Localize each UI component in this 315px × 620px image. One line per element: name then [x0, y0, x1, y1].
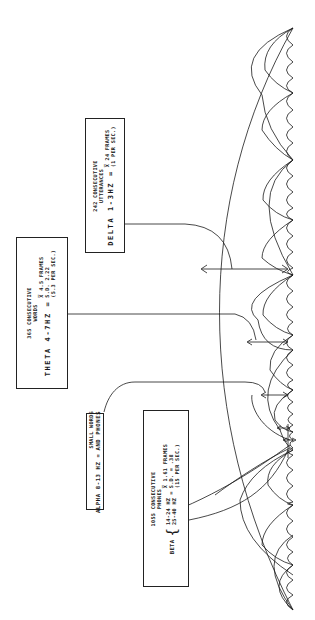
- beta-band-label: BETA: [169, 539, 175, 554]
- theta-box-text: 365 CONSECUTIVE WORDS THETA 4-7HZ = X̅ 4…: [27, 250, 57, 377]
- scalloped-baseline: [287, 28, 294, 610]
- beta-equals: =: [169, 491, 175, 494]
- alpha-box: SMALL WORDS ALPHA 8-13 HZ = AND PHONES: [86, 413, 104, 510]
- beta-range-2: 25-40 HZ: [172, 497, 178, 524]
- delta-connector: [125, 224, 232, 269]
- alpha-connector: [104, 382, 265, 412]
- beta-box-text: 1055 CONSECUTIVE PHONES BETA { 14-24 HZ …: [151, 443, 181, 553]
- theta-box: 365 CONSECUTIVE WORDS THETA 4-7HZ = X̅ 4…: [16, 237, 68, 389]
- theta-band-label: THETA 4-7HZ =: [44, 301, 52, 377]
- delta-box-text: 242 CONSECUTIVE UTTERANCES DELTA 1-3HZ =…: [93, 126, 117, 246]
- alpha-band-label: ALPHA 8-13 HZ =: [95, 453, 101, 513]
- delta-arc: [220, 28, 294, 610]
- alpha-desc: AND PHONES: [95, 410, 101, 450]
- beta-rate: (15 PER SEC.): [175, 443, 181, 488]
- brace-icon: {: [165, 528, 179, 536]
- delta-band-label: DELTA 1-3HZ =: [107, 170, 115, 246]
- delta-rate: (1 PER SEC.): [111, 126, 117, 167]
- alpha-box-text: SMALL WORDS ALPHA 8-13 HZ = AND PHONES: [89, 410, 101, 512]
- theta-arc: [251, 28, 293, 160]
- beta-box: 1055 CONSECUTIVE PHONES BETA { 14-24 HZ …: [143, 410, 189, 587]
- theta-rate: (5.3 PER SEC.): [51, 250, 57, 298]
- theta-connector: [68, 314, 256, 340]
- delta-box: 242 CONSECUTIVE UTTERANCES DELTA 1-3HZ =…: [85, 118, 125, 253]
